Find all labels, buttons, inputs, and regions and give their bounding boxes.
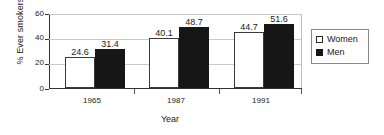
legend-item-men[interactable]: Men: [316, 46, 364, 59]
bar-women-1991[interactable]: [234, 32, 264, 88]
x-tick-mark: [219, 89, 220, 94]
y-tick-label: 60: [22, 10, 44, 18]
bar-women-1987[interactable]: [149, 38, 179, 88]
bar-value-label: 51.6: [258, 14, 300, 24]
legend-swatch-women-icon: [316, 36, 323, 43]
x-tick-label-1987: 1987: [154, 96, 198, 105]
x-axis-line: [49, 88, 302, 89]
chart-legend: Women Men: [311, 29, 369, 64]
bar-chart-figure: % Ever smokers 60 40 20 0 24.6 31.4 40.1…: [0, 0, 384, 135]
x-tick-mark: [134, 89, 135, 94]
legend-swatch-men-icon: [316, 49, 323, 56]
x-tick-label-1965: 1965: [70, 96, 114, 105]
x-tick-label-1991: 1991: [239, 96, 283, 105]
y-tick-mark: [45, 89, 49, 90]
x-axis-title: Year: [0, 114, 340, 124]
legend-item-women[interactable]: Women: [316, 33, 364, 46]
y-tick-label: 20: [22, 59, 44, 67]
plot-right-border: [301, 14, 302, 89]
bar-women-1965[interactable]: [65, 57, 95, 88]
plot-area: 24.6 31.4 40.1 48.7 44.7 51.6: [49, 14, 302, 89]
y-axis-line: [49, 14, 50, 89]
legend-label-women: Women: [327, 35, 358, 44]
bar-value-label: 48.7: [173, 17, 215, 27]
y-tick-label: 40: [22, 34, 44, 42]
y-tick-label: 0: [22, 85, 44, 93]
legend-label-men: Men: [327, 48, 345, 57]
bar-men-1991[interactable]: [264, 24, 294, 88]
x-tick-mark: [301, 89, 302, 94]
bar-value-label: 31.4: [89, 39, 131, 49]
bar-value-label: 40.1: [143, 28, 185, 38]
